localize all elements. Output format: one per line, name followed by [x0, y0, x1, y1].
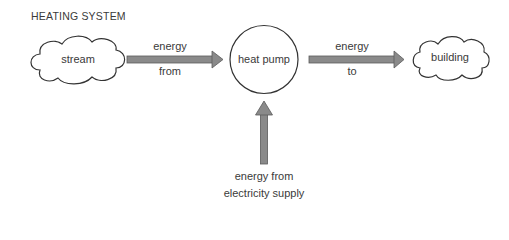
left-arrow-label-top: energy [150, 40, 190, 52]
heat-pump-label: heat pump [234, 53, 294, 65]
left-arrow-label-bottom: from [150, 65, 190, 77]
building-label: building [430, 51, 470, 63]
bottom-arrow-label-line2: electricity supply [204, 187, 324, 199]
right-arrow-label-bottom: to [332, 65, 372, 77]
right-arrow-label-top: energy [332, 40, 372, 52]
energy-from-electricity-arrow [256, 101, 273, 164]
stream-label: stream [58, 53, 98, 65]
bottom-arrow-label-line1: energy from [214, 170, 314, 182]
